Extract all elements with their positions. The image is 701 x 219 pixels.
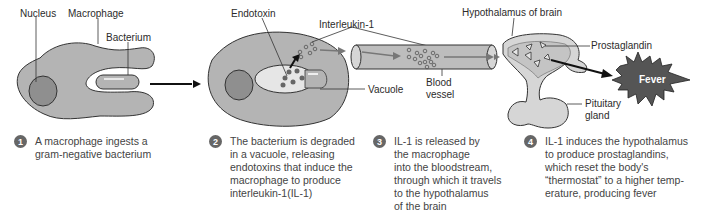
nucleus-2 [225, 70, 253, 100]
bacterium-label: Bacterium [106, 32, 151, 44]
blood-vessel [351, 45, 497, 69]
step-1: 1 A macrophage ingests agram-negative ba… [14, 135, 151, 161]
step-2: 2 The bacterium is degradedin a vacuole,… [209, 135, 355, 200]
step-4: 4 IL-1 induces the hypothalamusto produc… [524, 135, 688, 200]
nucleus-1 [29, 76, 57, 106]
step-3: 3 IL-1 is released bythe macrophageinto … [373, 135, 501, 213]
vacuole-label: Vacuole [368, 84, 403, 96]
pituitary-label-2: gland [585, 110, 609, 122]
pituitary-label-1: Pituitary [585, 98, 621, 110]
arrow-to-vessel [320, 50, 340, 51]
macrophage-cell-2 [208, 32, 349, 126]
step-description: IL-1 is released bythe macrophageinto th… [394, 135, 501, 213]
blood-vessel-label-2: vessel [426, 89, 454, 101]
macrophage-label: Macrophage [68, 8, 124, 20]
nucleus-label: Nucleus [20, 8, 56, 20]
interleukin-label: Interleukin-1 [319, 19, 374, 31]
prostaglandin-label: Prostaglandin [591, 40, 652, 52]
hypothalamus [503, 34, 587, 128]
endotoxin-label: Endotoxin [231, 8, 275, 20]
hypothalamus-label: Hypothalamus of brain [462, 7, 562, 19]
blood-vessel-label-1: Blood [426, 77, 452, 89]
bacterium-1 [96, 75, 139, 89]
step-number-badge: 3 [373, 135, 386, 148]
degraded-bacterium [305, 70, 327, 88]
step-number-badge: 4 [524, 135, 537, 148]
step-number-badge: 1 [14, 135, 27, 148]
step-description: The bacterium is degradedin a vacuole, r… [230, 135, 355, 200]
step-description: IL-1 induces the hypothalamusto produce … [545, 135, 688, 200]
step-description: A macrophage ingests agram-negative bact… [35, 135, 151, 161]
fever-label: Fever [639, 74, 666, 85]
step-number-badge: 2 [209, 135, 222, 148]
macrophage-cell-1 [17, 43, 154, 119]
